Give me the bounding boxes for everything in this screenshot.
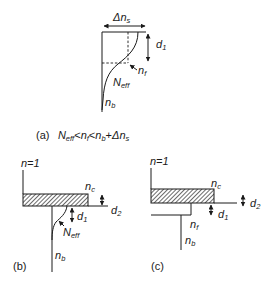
delta-ns-label: Δns <box>112 11 131 25</box>
d2-label: d2 <box>250 197 261 211</box>
panel-b: n=1 nc d2 d1 Neff nb (b) <box>13 157 122 272</box>
nc-label: nc <box>85 180 95 194</box>
air-index-label: n=1 <box>150 155 169 167</box>
cladding-layer <box>151 189 214 203</box>
nf-label: nf <box>190 218 199 232</box>
nc-label: nc <box>211 177 221 191</box>
d1-label: d1 <box>156 38 166 52</box>
cladding-layer <box>23 194 88 206</box>
nf-pointer-arrow <box>130 65 137 70</box>
d2-label: d2 <box>111 204 122 218</box>
panel-c: n=1 nc d2 d1 nf nb (c) <box>150 155 261 272</box>
nb-label: nb <box>185 234 195 248</box>
panel-a: Δns d1 nf Neff nb (a) Neff<nf<nb+Δns <box>36 11 166 143</box>
d1-label: d1 <box>77 210 87 224</box>
nf-label: nf <box>138 64 147 78</box>
neff-label: Neff <box>113 76 130 90</box>
nb-label: nb <box>105 96 115 110</box>
panel-b-caption: (b) <box>13 260 26 272</box>
panel-c-caption: (c) <box>151 260 164 272</box>
d1-label: d1 <box>218 208 228 222</box>
panel-a-caption: (a) Neff<nf<nb+Δns <box>36 125 130 143</box>
neff-label: Neff <box>63 226 80 240</box>
air-index-label: n=1 <box>21 157 40 169</box>
nb-label: nb <box>55 249 65 263</box>
waveguide-index-profile-diagram: Δns d1 nf Neff nb (a) Neff<nf<nb+Δns n=1… <box>0 0 275 285</box>
